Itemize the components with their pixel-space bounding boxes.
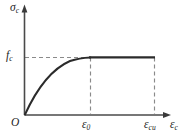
peak-stress-subscript: c [9, 54, 12, 63]
origin-label: O [11, 117, 19, 129]
ultimate-strain-subscript: cu [149, 123, 156, 132]
peak-strain-label: ε0 [82, 119, 90, 131]
x-axis-label-symbol: ε [170, 118, 175, 130]
stress-strain-rising-curve [25, 57, 91, 114]
y-axis-label-symbol: σ [10, 1, 16, 13]
peak-strain-subscript: 0 [87, 123, 91, 132]
plot-canvas [0, 0, 187, 138]
y-axis-label: σc [10, 2, 19, 14]
ultimate-strain-symbol: ε [144, 118, 149, 130]
stress-strain-figure: σc fc O ε0 εcu εc [0, 0, 187, 138]
peak-stress-label: fc [6, 50, 13, 62]
x-axis-label-subscript: c [175, 123, 178, 132]
x-axis-label: εc [170, 119, 178, 131]
y-axis-arrow-icon [22, 5, 28, 13]
ultimate-strain-label: εcu [144, 119, 156, 131]
y-axis-label-subscript: c [16, 6, 19, 15]
peak-strain-symbol: ε [82, 118, 87, 130]
